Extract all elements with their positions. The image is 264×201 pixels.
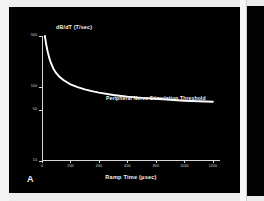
y-tick-label-10: 10 xyxy=(33,159,37,163)
y-tick-label-100: 100 xyxy=(31,86,37,90)
page-left-margin xyxy=(0,0,9,201)
x-tick-label-1200: 1200 xyxy=(209,165,217,169)
figure-panel-b xyxy=(247,6,264,196)
figure-panel-a: dB/dT (T/sec) 1050100500 020040060080010… xyxy=(10,8,240,192)
y-tick-label-50: 50 xyxy=(33,108,37,112)
panel-label: A xyxy=(27,174,34,184)
x-tick-label-0: 0 xyxy=(41,165,43,169)
y-axis-title: dB/dT (T/sec) xyxy=(56,24,92,30)
y-tick-label-500: 500 xyxy=(31,34,37,38)
x-tick-label-200: 200 xyxy=(67,165,73,169)
x-tick-label-1000: 1000 xyxy=(180,165,188,169)
x-axis-title: Ramp Time (μsec) xyxy=(42,174,220,180)
curve-annotation-label: Peripheral Nerve Stimulation Threshold xyxy=(106,95,206,101)
x-tick-label-400: 400 xyxy=(96,165,102,169)
page-background: dB/dT (T/sec) 1050100500 020040060080010… xyxy=(0,0,264,201)
x-tick-label-800: 800 xyxy=(153,165,159,169)
x-tick-label-600: 600 xyxy=(124,165,130,169)
